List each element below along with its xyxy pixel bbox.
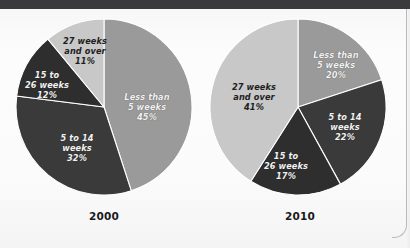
pie-svg-2010 [202,14,398,204]
pie-wrap-2010: Less than 5 weeks 20% 5 to 14 weeks 22% … [202,14,398,204]
pie-wrap-2000: Less than 5 weeks 45% 5 to 14 weeks 32% … [6,14,202,204]
pie-slices-2000 [16,19,192,195]
pie-slices-2010 [210,19,386,195]
pie-chart-2010: Less than 5 weeks 20% 5 to 14 weeks 22% … [202,14,398,234]
pie-svg-2000 [6,14,202,204]
figure-canvas: Less than 5 weeks 45% 5 to 14 weeks 32% … [0,0,410,248]
pie-chart-2000: Less than 5 weeks 45% 5 to 14 weeks 32% … [6,14,202,234]
year-caption-2010: 2010 [202,210,398,222]
page-edge-shading [406,9,410,248]
year-caption-2000: 2000 [6,210,202,222]
scan-top-band [0,0,410,9]
